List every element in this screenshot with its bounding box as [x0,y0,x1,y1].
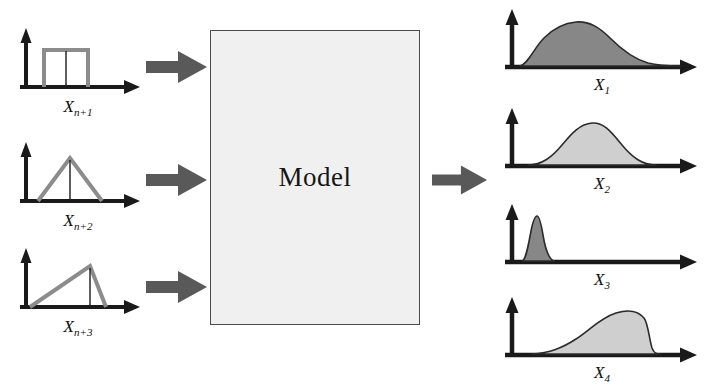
output-plot-3-label-sub: 3 [604,279,610,291]
output-plot-1: X1 [498,8,708,76]
output-plot-2-label-sub: 2 [604,183,610,195]
skewed-triangular-distribution-outline [30,266,106,307]
output-plot-4-label: X4 [576,364,628,384]
input-flow-arrow-1 [146,50,208,88]
input-plot-3: Xn+3 [14,246,154,316]
density-curve-x3 [522,216,554,261]
output-plot-4-label-sub: 4 [604,372,610,384]
input-plot-1-label-base: X [64,97,74,116]
y-axis [506,297,519,356]
x-axis [20,80,140,94]
input-flow-arrow-3 [146,270,208,308]
input-flow-arrow-2 [146,163,208,201]
y-axis [506,108,519,167]
output-plot-1-label: X1 [576,76,628,96]
input-plot-3-svg [14,246,154,316]
diagram-canvas: Xn+1 Xn+2 [0,0,713,392]
output-plot-2-label: X2 [576,175,628,195]
density-curve-x1 [520,22,680,66]
y-axis [21,142,32,202]
output-plot-3-label: X3 [576,271,628,291]
output-plot-3-label-base: X [594,270,604,289]
input-plot-2-label: Xn+2 [48,212,108,232]
model-box[interactable]: Model [210,30,420,325]
input-plot-1-label-sub: n+1 [74,106,92,118]
input-plot-2-svg [14,140,154,210]
output-plot-4-label-base: X [594,363,604,382]
output-plot-3: X3 [498,203,708,271]
y-axis [21,28,32,88]
y-axis [21,248,32,308]
input-plot-2-label-sub: n+2 [74,220,92,232]
output-plot-3-svg [498,203,708,271]
input-plot-2-label-base: X [64,211,74,230]
y-axis [506,204,519,263]
output-plot-1-label-base: X [594,75,604,94]
output-plot-1-svg [498,8,708,76]
input-plot-2: Xn+2 [14,140,154,210]
density-curve-x2 [528,123,656,165]
output-plot-2-label-base: X [594,174,604,193]
output-plot-2-svg [498,107,708,175]
input-plot-3-label-sub: n+3 [74,326,92,338]
input-plot-3-label: Xn+3 [48,318,108,338]
output-plot-2: X2 [498,107,708,175]
model-box-label: Model [279,162,352,193]
input-plot-3-label-base: X [64,317,74,336]
density-curve-x4 [532,311,660,354]
output-flow-arrow [432,163,488,201]
output-plot-4: X4 [498,296,708,364]
y-axis [506,9,519,68]
input-plot-1-label: Xn+1 [48,98,108,118]
output-plot-4-svg [498,296,708,364]
input-plot-1: Xn+1 [14,26,154,96]
output-plot-1-label-sub: 1 [604,84,610,96]
input-plot-1-svg [14,26,154,96]
